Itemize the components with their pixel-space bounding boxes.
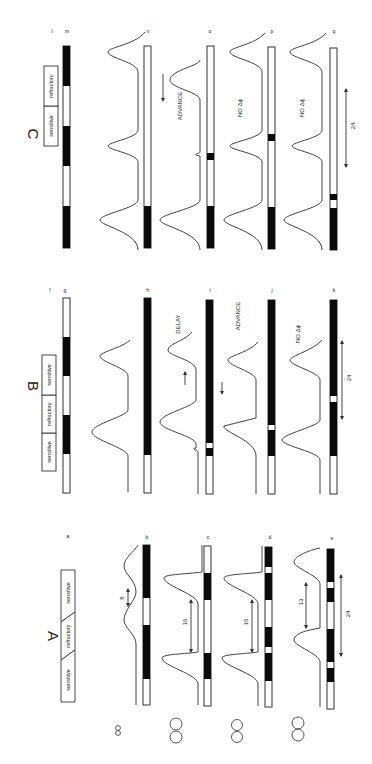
row-label-e: e — [331, 535, 334, 541]
bar-d — [265, 547, 272, 707]
arrow-delay-i — [183, 371, 187, 385]
panel-b: B sensitive refractory sensitive f g h D… — [25, 287, 352, 494]
bar-b — [143, 545, 150, 705]
row-label-j: j — [270, 287, 272, 293]
arrow-advance-j — [220, 382, 224, 395]
header-sensitive: sensitive — [48, 115, 54, 136]
row-label-g: g — [64, 287, 67, 293]
row-label-q: q — [333, 28, 336, 34]
bar-g — [63, 298, 70, 493]
row-label-i: i — [209, 287, 210, 293]
interval-label-8: 8 — [119, 596, 125, 600]
panel-c: C sensitive refractory l m n — [25, 28, 356, 250]
wave-j — [224, 342, 258, 494]
interval-label-16-c: 16 — [182, 618, 188, 625]
bar-m — [63, 46, 70, 248]
row-label-m: m — [65, 28, 69, 34]
panel-b-header: sensitive refractory sensitive — [42, 355, 56, 471]
header-sensitive-2: sensitive — [46, 364, 52, 385]
row-label-b: b — [146, 534, 149, 540]
interval-arrow-c: 16 — [182, 599, 193, 653]
oscillator-icon-c — [170, 718, 182, 743]
result-advance-j: ADVANCE — [235, 302, 241, 331]
panel-a-header: sensitive refractory sensitive — [61, 570, 75, 702]
bar-p — [268, 47, 275, 249]
oscillator-icon-b — [116, 726, 121, 736]
result-no-shift-p: NO Δϕ — [237, 98, 243, 117]
bar-c — [204, 546, 211, 706]
header-sensitive-2: sensitive — [65, 669, 71, 690]
row-label-a: a — [67, 533, 70, 539]
result-delay-i: DELAY — [175, 314, 181, 333]
wave-b — [124, 545, 138, 705]
bar-k — [330, 300, 337, 494]
period-arrow-q: 24 — [344, 88, 356, 168]
period-label-q: 24 — [350, 122, 356, 129]
oscillator-icon-d — [232, 720, 243, 743]
header-refractory: refractory — [46, 402, 52, 425]
header-refractory: refractory — [48, 74, 54, 97]
period-label-e: 24 — [345, 610, 351, 617]
panel-b-label: B — [25, 381, 42, 391]
wave-n — [100, 32, 145, 250]
result-advance-o: ADVANCE — [177, 92, 183, 121]
panel-c-label: C — [25, 129, 42, 140]
oscillator-icon-e — [292, 717, 304, 741]
row-label-c: c — [207, 534, 210, 540]
header-refractory: refractory — [65, 624, 71, 647]
row-label-l: l — [51, 28, 52, 34]
header-sensitive-1: sensitive — [65, 582, 71, 603]
wave-i — [160, 332, 198, 494]
bar-i — [206, 300, 213, 494]
row-label-h: h — [147, 287, 150, 293]
panel-a-label: A — [45, 631, 62, 641]
bar-q — [330, 48, 337, 250]
interval-arrow-e: 13 — [298, 582, 308, 629]
bar-o — [207, 46, 214, 248]
wave-e — [294, 548, 320, 707]
bar-n — [144, 46, 151, 248]
interval-label-16-d: 16 — [243, 618, 249, 625]
wave-d — [222, 546, 262, 706]
wave-o — [160, 60, 200, 250]
period-label-k: 24 — [346, 374, 352, 381]
wave-p — [224, 33, 265, 250]
period-arrow-e: 24 — [339, 574, 351, 657]
row-label-n: n — [147, 28, 150, 34]
interval-arrow-d: 16 — [243, 599, 254, 653]
row-label-p: p — [271, 28, 274, 34]
interval-arrow-b: 8 — [119, 588, 130, 607]
bar-e — [327, 549, 334, 709]
row-label-o: o — [209, 28, 212, 34]
result-no-shift-k: NO Δϕ — [295, 324, 301, 343]
row-label-k: k — [333, 287, 336, 293]
bar-j — [268, 300, 275, 494]
interval-label-13: 13 — [298, 598, 304, 605]
phase-response-figure: C sensitive refractory l m n — [0, 0, 372, 764]
panel-a: A sensitive refractory sensitive a 8 b — [45, 533, 351, 743]
panel-c-header: sensitive refractory — [44, 66, 58, 146]
arrow-advance-o — [161, 74, 165, 102]
wave-q — [284, 33, 326, 250]
row-label-f: f — [49, 287, 51, 293]
bar-h — [144, 298, 151, 493]
wave-h — [92, 340, 130, 492]
row-label-d: d — [269, 534, 272, 540]
result-no-shift-q: NO Δϕ — [299, 98, 305, 117]
period-arrow-k: 24 — [340, 340, 352, 420]
wave-k — [282, 340, 322, 494]
header-sensitive-1: sensitive — [46, 441, 52, 462]
